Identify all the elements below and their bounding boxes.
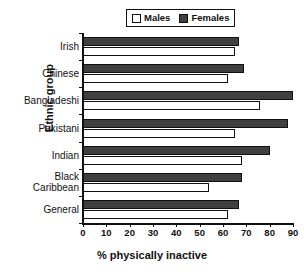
y-tick-3 [79,114,83,115]
x-tick-label-80: 80 [264,228,275,238]
x-tick-label-50: 50 [194,228,205,238]
legend-label-females: Females [191,13,229,23]
x-axis-line [82,223,293,225]
y-tick-label-line: Chinese [0,68,79,79]
bar-males-general [83,210,228,219]
legend-entry-males: Males [132,13,170,23]
females-swatch-icon [179,14,188,23]
bar-females-indian [83,146,270,155]
y-tick-5 [79,169,83,170]
y-tick-label-bangladeshi: Bangladeshi [0,95,79,106]
x-tick-label-30: 30 [148,228,159,238]
bar-females-bangladeshi [83,91,293,100]
y-tick-label-black-caribbean: BlackCaribbean [0,171,79,193]
bar-females-chinese [83,64,244,73]
bar-females-pakistani [83,119,288,128]
x-tick-label-40: 40 [171,228,182,238]
y-tick-label-line: Indian [0,150,79,161]
y-tick-label-line: Bangladeshi [0,95,79,106]
legend-entry-females: Females [179,13,229,23]
bar-females-general [83,200,239,209]
y-tick-label-indian: Indian [0,150,79,161]
y-tick-4 [79,142,83,143]
y-tick-7 [79,223,83,224]
y-tick-label-pakistani: Pakistani [0,123,79,134]
y-tick-label-line: Black [0,171,79,182]
y-tick-label-line: Pakistani [0,123,79,134]
x-tick-label-0: 0 [80,228,85,238]
bar-females-black-caribbean [83,173,242,182]
x-tick-label-60: 60 [218,228,229,238]
y-tick-label-irish: Irish [0,41,79,52]
x-tick-label-70: 70 [241,228,252,238]
y-tick-label-line: Irish [0,41,79,52]
bar-males-indian [83,156,242,165]
bar-males-bangladeshi [83,101,260,110]
y-tick-0 [79,33,83,34]
bar-males-irish [83,47,235,56]
y-tick-2 [79,87,83,88]
bar-males-pakistani [83,129,235,138]
bar-females-irish [83,37,239,46]
bar-chart: Males Females Ethnic group IrishChineseB… [0,0,304,272]
legend-label-males: Males [144,13,170,23]
y-tick-label-line: Caribbean [0,182,79,193]
y-tick-label-line: General [0,204,79,215]
y-tick-label-chinese: Chinese [0,68,79,79]
x-axis-title: % physically inactive [0,249,304,261]
y-tick-label-general: General [0,204,79,215]
y-tick-1 [79,60,83,61]
males-swatch-icon [132,14,141,23]
bar-males-chinese [83,74,228,83]
x-tick-label-20: 20 [124,228,135,238]
x-tick-label-90: 90 [288,228,299,238]
y-tick-6 [79,196,83,197]
bar-males-black-caribbean [83,183,209,192]
plot-area: 0102030405060708090 [83,33,293,223]
chart-legend: Males Females [126,9,235,27]
x-tick-label-10: 10 [101,228,112,238]
